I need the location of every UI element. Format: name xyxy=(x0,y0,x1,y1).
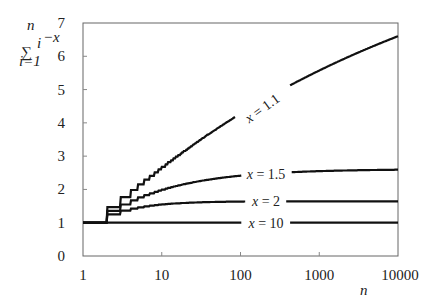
sum-upper-limit: n xyxy=(27,17,35,33)
sum-term: i xyxy=(37,35,41,51)
curve-label: x = 2 xyxy=(251,194,280,209)
y-axis-label: ∑ n i=1 i −x xyxy=(19,17,60,69)
y-tick-label: 3 xyxy=(58,148,66,164)
y-tick-label: 0 xyxy=(58,248,66,264)
x-tick-label: 10000 xyxy=(381,267,419,283)
sum-lower-limit: i=1 xyxy=(19,53,41,69)
sum-series-chart: ∑ n i=1 i −x 01234567 110100100010000 x … xyxy=(0,0,431,307)
curve-x-1-5 xyxy=(292,170,398,173)
y-tick-label: 5 xyxy=(58,82,66,98)
x-tick-label: 1 xyxy=(79,267,87,283)
x-tick-label: 10 xyxy=(154,267,169,283)
y-tick-label: 4 xyxy=(58,115,66,131)
curve-x-1-1 xyxy=(83,117,235,223)
y-tick-label: 2 xyxy=(58,181,66,197)
sum-exponent: −x xyxy=(43,29,60,45)
curves xyxy=(83,36,398,223)
curve-label: x = 1.1 xyxy=(241,91,282,126)
plot-frame xyxy=(83,23,398,256)
curve-label: x = 10 xyxy=(247,216,283,231)
curve-labels: x = 1.1x = 1.5x = 2x = 10 xyxy=(241,91,285,231)
curve-label: x = 1.5 xyxy=(246,167,286,182)
x-axis-ticks: 110100100010000 xyxy=(79,252,419,283)
y-tick-label: 1 xyxy=(58,215,66,231)
y-tick-label: 6 xyxy=(58,48,66,64)
x-tick-label: 100 xyxy=(229,267,252,283)
y-tick-label: 7 xyxy=(58,15,66,31)
x-tick-label: 1000 xyxy=(304,267,334,283)
curve-x-1-1 xyxy=(290,36,398,85)
x-axis-label: n xyxy=(360,282,368,298)
